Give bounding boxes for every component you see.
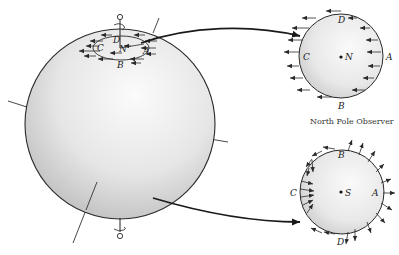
north-pole-view: N D C A B North Pole Observer (284, 11, 394, 126)
earth-diagram: D C N A B N D C (0, 0, 399, 255)
north-view-label-N: N (344, 52, 354, 62)
south-view-label-A: A (371, 188, 379, 198)
north-view-center-dot (339, 55, 342, 58)
globe-label-B: B (116, 60, 124, 70)
north-view-label-D: D (337, 15, 345, 25)
south-pole-view: S B C A D (290, 140, 395, 247)
north-view-label-C: C (303, 52, 310, 62)
globe-label-C: C (97, 43, 104, 53)
north-view-label-A: A (385, 52, 393, 62)
south-view-label-S: S (345, 188, 351, 198)
south-view-center-dot (339, 190, 342, 193)
north-view-caption: North Pole Observer (310, 117, 394, 126)
south-view-label-C: C (290, 188, 297, 198)
globe-sphere (25, 29, 215, 219)
south-view-label-B: B (337, 150, 345, 160)
south-view-label-D: D (336, 237, 344, 247)
globe-label-N: N (118, 44, 128, 54)
south-axis-symbol (114, 218, 126, 239)
north-view-label-B: B (337, 101, 345, 111)
globe-label-A: A (142, 46, 150, 56)
tick-top (153, 18, 159, 33)
